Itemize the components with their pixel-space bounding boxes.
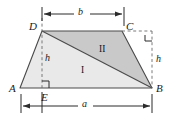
dimension-label-b: b [78,7,83,17]
a-arrowhead-right [143,104,150,109]
region-label-one: I [81,66,84,76]
vertex-label-B: B [156,83,163,94]
vertex-label-E: E [41,92,48,103]
b-arrowhead-right [115,12,122,17]
a-arrowhead-left [23,104,30,109]
vertex-label-A: A [9,83,16,94]
region-label-two: II [99,45,105,55]
right-angle-C-icon [145,35,152,41]
b-arrowhead-left [44,12,51,17]
vertex-label-C: C [126,21,133,32]
vertex-label-D: D [29,21,37,32]
height-label-right: h [156,54,161,64]
geometry-figure: A B C D E I II b a h h [0,0,172,121]
dimension-label-a: a [82,99,87,109]
height-label-left: h [45,53,50,63]
